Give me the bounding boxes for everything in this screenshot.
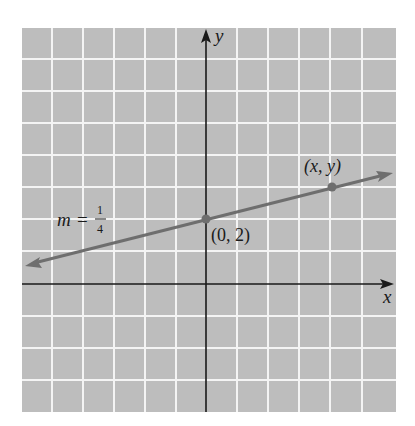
svg-text:m: m bbox=[57, 209, 71, 230]
y-axis-label: y bbox=[213, 25, 224, 46]
x-axis-label: x bbox=[382, 286, 392, 307]
point-general bbox=[328, 183, 337, 192]
svg-text:1: 1 bbox=[97, 203, 103, 217]
point-intercept bbox=[202, 215, 211, 224]
svg-text:4: 4 bbox=[97, 222, 103, 236]
coordinate-plane-figure: y x (x, y) (0, 2) m = 1 4 bbox=[0, 0, 415, 426]
svg-text:=: = bbox=[77, 209, 88, 230]
point-general-label: (x, y) bbox=[304, 156, 341, 177]
point-intercept-label: (0, 2) bbox=[211, 225, 250, 246]
